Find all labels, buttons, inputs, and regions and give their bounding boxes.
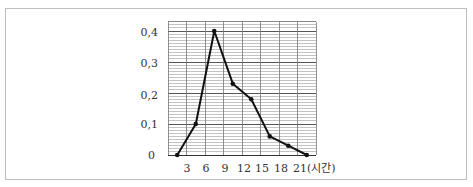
data-point: [267, 134, 272, 139]
data-point: [304, 153, 309, 158]
y-label-0-2: 0,2: [141, 89, 159, 102]
x-label-3: 3: [184, 162, 191, 175]
data-point: [230, 81, 235, 86]
x-label-21-hours: 21(시간): [293, 162, 336, 175]
x-label-6: 6: [203, 162, 210, 175]
data-point: [212, 29, 217, 34]
x-label-9: 9: [222, 162, 229, 175]
y-label-0-4: 0,4: [141, 26, 159, 39]
origin-label: 0: [148, 149, 155, 162]
data-point: [193, 122, 198, 127]
data-point: [175, 153, 180, 158]
frequency-polygon-chart: 0 0,1 0,2 0,3 0,4 3 6 9 12 15 18 21(시간): [0, 0, 473, 187]
data-point: [286, 143, 291, 148]
x-label-18: 18: [274, 162, 288, 175]
x-label-15: 15: [255, 162, 269, 175]
x-label-12: 12: [237, 162, 251, 175]
y-label-0-1: 0,1: [141, 118, 159, 131]
y-label-0-3: 0,3: [141, 57, 159, 70]
data-point: [249, 97, 254, 102]
axis-labels: 0 0,1 0,2 0,3 0,4 3 6 9 12 15 18 21(시간): [141, 26, 336, 175]
